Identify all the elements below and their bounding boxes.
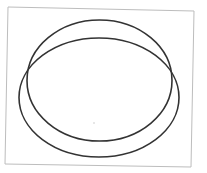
diagram-canvas xyxy=(0,0,207,173)
lower-ellipse xyxy=(19,38,179,157)
frame-border xyxy=(5,7,194,167)
center-dot xyxy=(93,122,95,124)
